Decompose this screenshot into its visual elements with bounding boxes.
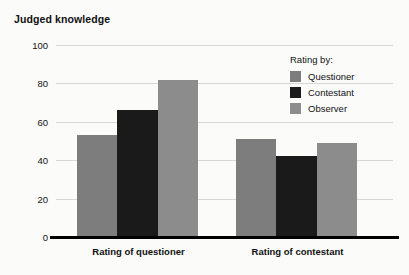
legend-entry-contestant: Contestant (290, 85, 354, 100)
legend-label-contestant: Contestant (308, 87, 354, 98)
y-axis-tick-label: 100 (2, 40, 48, 51)
legend: Rating by: QuestionerContestantObserver (290, 54, 354, 117)
y-axis-tick-label: 40 (2, 155, 48, 166)
bar-chart-figure: Judged knowledge 020406080100 Rating of … (0, 0, 409, 275)
chart-title: Judged knowledge (14, 13, 110, 25)
legend-title: Rating by: (290, 54, 354, 65)
bar-observer-0 (158, 80, 198, 237)
bar-contestant-0 (117, 110, 157, 237)
bar-questioner-1 (236, 139, 276, 237)
bar-contestant-1 (276, 156, 316, 237)
bar-questioner-0 (77, 135, 117, 237)
legend-swatch-questioner (290, 71, 301, 82)
y-axis-tick-labels: 020406080100 (0, 45, 48, 237)
legend-swatch-observer (290, 103, 301, 114)
bar-observer-1 (317, 143, 357, 237)
legend-entries: QuestionerContestantObserver (290, 69, 354, 116)
legend-swatch-contestant (290, 87, 301, 98)
y-axis-tick-label: 80 (2, 78, 48, 89)
legend-label-observer: Observer (308, 103, 347, 114)
y-axis-tick-label: 20 (2, 193, 48, 204)
x-axis-category-label-0: Rating of questioner (56, 246, 221, 257)
x-axis-baseline (50, 236, 399, 239)
legend-label-questioner: Questioner (308, 71, 354, 82)
y-axis-tick-label: 0 (2, 232, 48, 243)
legend-entry-observer: Observer (290, 101, 354, 116)
legend-entry-questioner: Questioner (290, 69, 354, 84)
bar-group-rating-of-questioner (77, 45, 198, 237)
y-axis-tick-label: 60 (2, 116, 48, 127)
x-axis-category-label-1: Rating of contestant (215, 246, 380, 257)
